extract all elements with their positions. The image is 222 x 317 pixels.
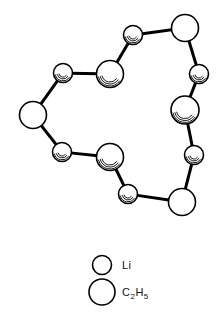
atom-et-left — [20, 102, 47, 129]
legend-element: H — [135, 286, 143, 298]
atom-et-bottom-right — [169, 189, 196, 216]
atom-sphere-c2h5 — [97, 144, 124, 171]
atom-sphere-c2h5 — [171, 96, 199, 124]
atom-sphere-li — [54, 64, 73, 83]
legend-swatch-ethyl — [89, 279, 115, 305]
atom-et-top-right — [172, 15, 199, 42]
atom-li-top — [124, 26, 143, 45]
atom-sphere-li — [124, 26, 143, 45]
atom-et-bottom-center — [97, 144, 124, 171]
atom-et-right — [171, 96, 199, 124]
atom-li-lower-left — [53, 143, 72, 162]
atom-sphere-c2h5 — [97, 61, 124, 88]
atom-li-bottom — [119, 185, 138, 204]
atom-sphere-c2h5 — [169, 189, 196, 216]
legend-swatch-li — [93, 256, 112, 275]
structure-canvas: LiC2H5 — [0, 0, 222, 317]
atom-li-lower-right — [185, 146, 204, 165]
atom-sphere-li — [53, 143, 72, 162]
atom-sphere-li — [185, 146, 204, 165]
atom-sphere-li — [119, 185, 138, 204]
atom-li-upper-right — [190, 65, 209, 84]
atom-et-upper-center — [97, 61, 124, 88]
atom-li-upper-left — [54, 64, 73, 83]
atom-sphere-li — [190, 65, 209, 84]
atom-sphere-c2h5 — [172, 15, 199, 42]
atom-sphere-c2h5 — [20, 102, 47, 129]
molecular-structure-figure: LiC2H5 — [0, 0, 222, 317]
legend-label-li: Li — [122, 259, 132, 271]
bond-li-upper-left-to-et-upper-center — [69, 73, 100, 74]
legend-subscript: 5 — [144, 292, 149, 301]
